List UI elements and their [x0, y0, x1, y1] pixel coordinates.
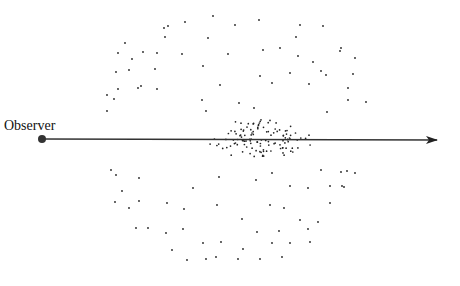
- star-dot: [183, 208, 185, 210]
- star-dot: [131, 58, 133, 60]
- star-dot: [280, 148, 282, 150]
- star-dot: [329, 202, 331, 204]
- star-dot: [240, 128, 242, 130]
- star-dot: [346, 170, 348, 172]
- star-dot: [329, 185, 331, 187]
- star-dot: [270, 134, 272, 136]
- star-dot: [106, 110, 108, 112]
- star-dot: [312, 61, 314, 63]
- star-dot: [205, 258, 207, 260]
- star-dot: [242, 248, 244, 250]
- star-dot: [227, 53, 229, 55]
- star-dot: [273, 143, 275, 145]
- star-dot: [245, 140, 247, 142]
- star-dot: [117, 88, 119, 90]
- star-dot: [340, 171, 342, 173]
- star-dot: [192, 187, 194, 189]
- star-dot: [307, 187, 309, 189]
- star-dot: [252, 123, 254, 125]
- star-dot: [271, 242, 273, 244]
- star-dot: [137, 87, 139, 89]
- star-dot: [140, 85, 142, 87]
- star-dot: [121, 190, 123, 192]
- star-dot: [299, 219, 301, 221]
- star-dot: [218, 143, 220, 145]
- star-dot: [283, 154, 285, 156]
- star-dot: [256, 141, 258, 143]
- star-dot: [220, 241, 222, 243]
- star-dot: [273, 132, 275, 134]
- star-dot: [202, 65, 204, 67]
- star-dot: [142, 51, 144, 53]
- star-dot: [268, 141, 270, 143]
- star-dot: [234, 24, 236, 26]
- star-dot: [354, 57, 356, 59]
- star-dot: [268, 144, 270, 146]
- star-dot: [263, 155, 265, 157]
- star-dot: [258, 124, 260, 126]
- star-dot: [226, 147, 228, 149]
- star-dot: [307, 228, 309, 230]
- star-dot: [259, 258, 261, 260]
- star-dot: [240, 134, 242, 136]
- star-dot: [166, 202, 168, 204]
- star-dot: [106, 94, 108, 96]
- star-dot: [128, 69, 130, 71]
- star-dot: [249, 153, 251, 155]
- star-dot: [276, 131, 278, 133]
- star-dot: [283, 207, 285, 209]
- star-dot: [267, 122, 269, 124]
- star-dot: [271, 172, 273, 174]
- star-dot: [299, 24, 301, 26]
- star-dot: [216, 204, 218, 206]
- star-dot: [270, 150, 272, 152]
- star-dot: [290, 134, 292, 136]
- star-dot: [250, 134, 252, 136]
- star-dot: [241, 136, 243, 138]
- star-dot: [234, 131, 236, 133]
- star-dot: [308, 134, 310, 136]
- star-dot: [215, 256, 217, 258]
- star-dot: [352, 73, 354, 75]
- star-dot: [242, 151, 244, 153]
- star-dot: [235, 121, 237, 123]
- star-dot: [184, 21, 186, 23]
- star-dot: [156, 88, 158, 90]
- star-dot: [263, 126, 265, 128]
- star-dot: [263, 150, 265, 152]
- scatter-diagram: [0, 0, 460, 286]
- star-dot: [258, 19, 260, 21]
- star-dot: [230, 130, 232, 132]
- observer-label: Observer: [4, 118, 55, 134]
- star-dot: [205, 110, 207, 112]
- observer-dot-icon: [38, 135, 46, 143]
- star-dot: [250, 142, 252, 144]
- star-dot: [138, 200, 140, 202]
- star-dot: [287, 141, 289, 143]
- line-of-sight-arrow: [42, 139, 437, 140]
- star-dot: [284, 137, 286, 139]
- star-dot: [230, 154, 232, 156]
- star-dot: [286, 133, 288, 135]
- star-dot: [295, 132, 297, 134]
- star-dot: [340, 47, 342, 49]
- star-dot: [165, 232, 167, 234]
- star-dot: [365, 101, 367, 103]
- star-dot: [269, 204, 271, 206]
- star-dot: [271, 82, 273, 84]
- star-dot: [285, 130, 287, 132]
- star-dot: [110, 169, 112, 171]
- star-dot: [259, 75, 261, 77]
- star-dot: [354, 172, 356, 174]
- star-dot: [241, 218, 243, 220]
- star-dot: [235, 133, 237, 135]
- star-dot: [124, 42, 126, 44]
- star-dot: [237, 258, 239, 260]
- star-dot: [230, 145, 232, 147]
- star-dot: [154, 68, 156, 70]
- star-dot: [266, 131, 268, 133]
- star-dot: [278, 230, 280, 232]
- star-dot: [317, 221, 319, 223]
- star-dot: [250, 129, 252, 131]
- star-dot: [290, 125, 292, 127]
